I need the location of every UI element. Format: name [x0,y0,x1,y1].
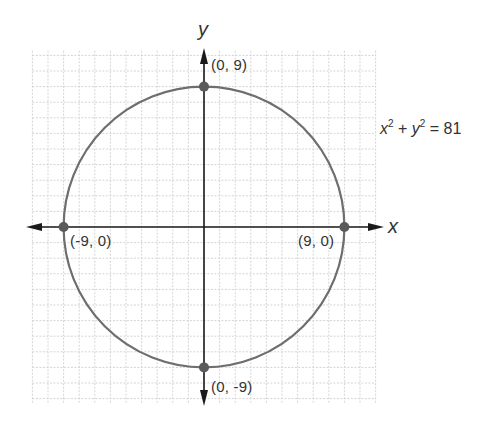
point-label-bottom: (0, -9) [211,378,252,395]
y-axis-up-arrow-icon [200,48,208,64]
eq-rhs: = 81 [425,120,461,137]
x-axis-label: x [388,215,398,238]
point-label-right: (9, 0) [298,232,334,249]
eq-plus: + [394,120,412,137]
point-marker [59,222,69,232]
eq-y: y [412,120,420,137]
point-marker [199,82,209,92]
y-axis-down-arrow-icon [200,390,208,406]
eq-x: x [380,120,388,137]
y-axis-label: y [198,18,208,41]
x-axis-left-arrow-icon [26,223,42,231]
point-label-top: (0, 9) [211,56,247,73]
point-label-left: (-9, 0) [70,232,111,249]
point-marker [199,362,209,372]
circle-equation: x2 + y2 = 81 [380,118,461,138]
point-marker [339,222,349,232]
coordinate-plane [0,0,498,434]
